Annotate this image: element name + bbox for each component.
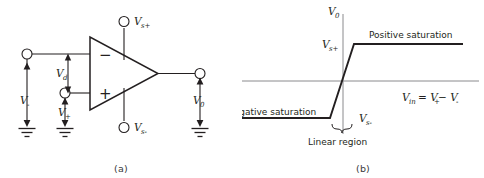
noninverting-sign-label: +: [99, 85, 112, 103]
inverting-input-label-sub: -: [27, 101, 30, 109]
output-voltage-label-sub: 0: [200, 101, 205, 109]
differential-voltage-label-sub: d: [63, 74, 68, 82]
noninverting-input-label-sub: +: [65, 113, 71, 121]
output-voltage-label: V 0: [193, 94, 205, 109]
supply-positive-label: V s+: [134, 15, 151, 30]
saturation-negative-tick-sub: s-: [366, 119, 373, 127]
inverting-ground-arrow-head: [24, 120, 31, 127]
output-ground-arrow-head: [197, 120, 204, 127]
x-axis-label-main-sub: in: [409, 98, 416, 106]
inverting-sign-label: −: [99, 46, 112, 64]
y-axis-label-sub: 0: [335, 12, 340, 20]
output-terminal: [195, 69, 205, 79]
noninverting-source-arrow-head: [62, 98, 69, 105]
transfer-characteristic-svg: V 0 V s+ V s- V in = V + − V -: [242, 0, 484, 152]
supply-negative-terminal: [119, 123, 129, 133]
output-arrow-head: [197, 78, 204, 85]
supply-positive-terminal: [119, 17, 129, 27]
inverting-input-terminal: [22, 49, 32, 59]
ground-symbol-inverting: [19, 129, 36, 137]
noninverting-ground-arrow-head: [62, 120, 69, 127]
supply-negative-branch: [119, 88, 129, 133]
panel-a-caption: (a): [0, 163, 242, 174]
saturation-positive-tick-sub: s+: [329, 45, 339, 53]
linear-region-label: Linear region: [308, 137, 367, 147]
panel-b-caption: (b): [242, 163, 484, 174]
inverting-input-label: V -: [20, 94, 30, 109]
differential-voltage-label: V d: [56, 67, 68, 82]
ground-symbol-noninverting: [57, 129, 74, 137]
y-axis-label: V 0: [328, 5, 340, 20]
linear-region-brace: [332, 124, 352, 133]
panel-b-transfer-characteristic: V 0 V s+ V s- V in = V + − V -: [242, 0, 484, 178]
saturation-negative-tick-label: V s-: [359, 112, 373, 127]
positive-saturation-label: Positive saturation: [369, 30, 452, 40]
ground-symbol-output: [192, 129, 209, 137]
x-axis-label-expr-sub2: -: [456, 98, 459, 106]
inverting-source-arrow-head: [24, 63, 31, 70]
supply-negative-label-sub: s-: [141, 128, 148, 136]
noninverting-input-label: V +: [58, 106, 71, 121]
figure-container: − + V s+ V s- V - V + V d: [0, 0, 484, 178]
supply-negative-label: V s-: [134, 121, 148, 136]
supply-positive-label-sub: s+: [141, 22, 151, 30]
x-axis-label: V in = V + − V -: [402, 91, 459, 106]
saturation-positive-tick-label: V s+: [322, 38, 339, 53]
negative-saturation-label: Negative saturation: [242, 107, 316, 117]
opamp-schematic-svg: − + V s+ V s- V - V + V d: [0, 0, 242, 152]
panel-a-opamp-schematic: − + V s+ V s- V - V + V d: [0, 0, 242, 178]
